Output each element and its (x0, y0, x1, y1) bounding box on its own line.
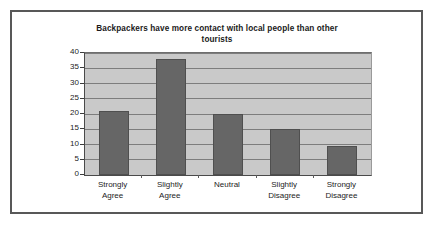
y-axis-tick-label: 15 (53, 124, 79, 132)
y-axis-tick-label: 30 (53, 79, 79, 87)
x-axis-tick-mark (198, 175, 199, 178)
x-axis-category-label-line: Agree (141, 191, 198, 202)
gridline (85, 98, 371, 99)
y-axis-tick-label: 5 (53, 155, 79, 163)
y-axis-tick-label: 35 (53, 63, 79, 71)
x-axis-category-label: StronglyAgree (84, 180, 141, 201)
y-axis-tick-label: 10 (53, 140, 79, 148)
x-axis-category-label-line: Slightly (256, 180, 313, 191)
bar (327, 146, 357, 175)
x-axis-category-label-line: Slightly (141, 180, 198, 191)
y-axis-tick-label: 25 (53, 94, 79, 102)
x-axis-category-label-line: Strongly (313, 180, 370, 191)
x-axis-tick-mark (256, 175, 257, 178)
bar (156, 59, 186, 175)
x-axis-category-label-line: Strongly (84, 180, 141, 191)
x-axis-category-label: StronglyDisagree (313, 180, 370, 201)
gridline (85, 68, 371, 69)
bar (213, 114, 243, 175)
y-axis-tick-label: 40 (53, 48, 79, 56)
chart-frame: Backpackers have more contact with local… (10, 10, 423, 214)
x-axis-category-label: SlightlyDisagree (256, 180, 313, 201)
x-axis-category-label: Neutral (198, 180, 255, 191)
x-axis-category-label-line: Disagree (313, 191, 370, 202)
x-axis-tick-mark (313, 175, 314, 178)
bar (99, 111, 129, 175)
y-axis-tick-label: 0 (53, 170, 79, 178)
plot-area (84, 52, 372, 176)
x-axis-category-label-line: Neutral (198, 180, 255, 191)
y-axis-tick-label: 20 (53, 109, 79, 117)
x-axis-category-label-line: Agree (84, 191, 141, 202)
chart-title: Backpackers have more contact with local… (42, 23, 392, 45)
x-axis-tick-mark (141, 175, 142, 178)
x-axis-category-label: SlightlyAgree (141, 180, 198, 201)
chart-title-line-1: Backpackers have more contact with local… (42, 23, 392, 34)
gridline (85, 53, 371, 54)
chart-title-line-2: tourists (42, 34, 392, 45)
chart-page: Backpackers have more contact with local… (0, 0, 437, 228)
x-axis-category-label-line: Disagree (256, 191, 313, 202)
gridline (85, 83, 371, 84)
bar (270, 129, 300, 175)
